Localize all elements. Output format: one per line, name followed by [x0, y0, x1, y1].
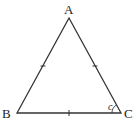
vertex-label-c: C [124, 106, 133, 121]
triangle-abc [17, 18, 121, 113]
vertex-label-b: B [2, 106, 11, 121]
vertex-label-a: A [64, 2, 74, 17]
angle-arc-c [112, 105, 117, 113]
triangle-diagram: A B C c [0, 0, 134, 125]
angle-label-c: c [108, 101, 113, 112]
